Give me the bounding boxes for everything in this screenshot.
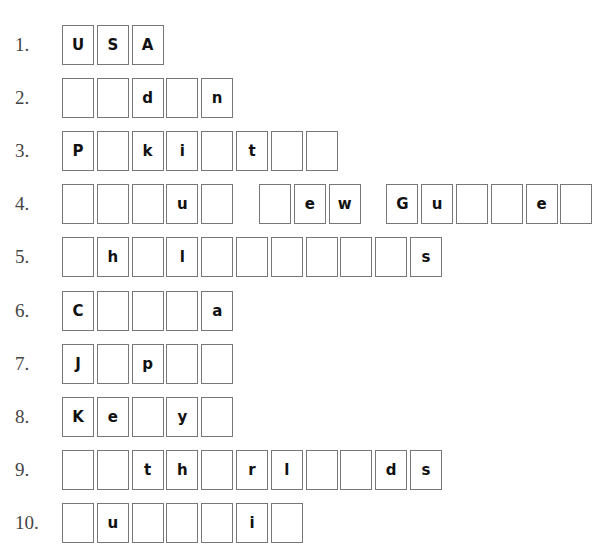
letter-box-empty[interactable] (491, 184, 523, 224)
letter-box-filled[interactable]: P (62, 131, 94, 171)
letter-box-empty[interactable] (97, 291, 129, 331)
letter-box-empty[interactable] (132, 503, 164, 543)
row-number: 6. (15, 300, 29, 322)
letter-box-filled[interactable]: U (62, 25, 94, 65)
letter-box-filled[interactable]: i (166, 131, 198, 171)
letter-box-empty[interactable] (236, 237, 268, 277)
letter-box-empty[interactable] (375, 237, 407, 277)
letter-box-empty[interactable] (201, 344, 233, 384)
row-number: 7. (15, 353, 29, 375)
letter-box-filled[interactable]: l (166, 237, 198, 277)
letter-box-empty[interactable] (271, 131, 303, 171)
row-number: 2. (15, 87, 29, 109)
letter-box-empty[interactable] (201, 237, 233, 277)
letter-box-filled[interactable]: C (62, 291, 94, 331)
letter-box-filled[interactable]: e (526, 184, 558, 224)
letter-box-empty[interactable] (340, 237, 372, 277)
letter-box-empty[interactable] (201, 397, 233, 437)
letter-box-empty[interactable] (97, 78, 129, 118)
letter-box-filled[interactable]: J (62, 344, 94, 384)
letter-box-empty[interactable] (97, 184, 129, 224)
letter-box-empty[interactable] (97, 131, 129, 171)
letter-box-empty[interactable] (166, 291, 198, 331)
letter-box-empty[interactable] (306, 237, 338, 277)
letter-box-filled[interactable]: y (166, 397, 198, 437)
letter-box-empty[interactable] (62, 237, 94, 277)
letter-box-empty[interactable] (560, 184, 592, 224)
letter-box-empty[interactable] (132, 184, 164, 224)
puzzle-row: 2.dn (0, 78, 591, 118)
letter-box-filled[interactable]: t (236, 131, 268, 171)
letter-box-filled[interactable]: e (294, 184, 326, 224)
letter-box-empty[interactable] (62, 503, 94, 543)
letter-box-filled[interactable]: u (166, 184, 198, 224)
letter-box-filled[interactable]: w (329, 184, 361, 224)
letter-box-empty[interactable] (201, 503, 233, 543)
letter-box-empty[interactable] (62, 78, 94, 118)
letter-box-filled[interactable]: a (201, 291, 233, 331)
row-number: 3. (15, 140, 29, 162)
letter-box-filled[interactable]: A (132, 25, 164, 65)
letter-box-filled[interactable]: s (410, 237, 442, 277)
letter-box-filled[interactable]: G (386, 184, 418, 224)
letter-box-filled[interactable]: K (62, 397, 94, 437)
puzzle-row: 4.uewGue (0, 184, 591, 224)
letter-box-filled[interactable]: d (375, 450, 407, 490)
puzzle-row: 3.Pkit (0, 131, 591, 171)
letter-box-empty[interactable] (132, 291, 164, 331)
letter-box-filled[interactable]: t (132, 450, 164, 490)
letter-box-filled[interactable]: u (421, 184, 453, 224)
row-number: 1. (15, 34, 29, 56)
row-number: 5. (15, 246, 29, 268)
letter-box-filled[interactable]: l (271, 450, 303, 490)
letter-box-empty[interactable] (456, 184, 488, 224)
puzzle-row: 9.thrlds (0, 450, 591, 490)
puzzle-row: 7.Jp (0, 344, 591, 384)
letter-box-filled[interactable]: n (201, 78, 233, 118)
letter-box-filled[interactable]: h (97, 237, 129, 277)
puzzle-row: 8.Key (0, 397, 591, 437)
letter-box-filled[interactable]: h (166, 450, 198, 490)
letter-box-filled[interactable]: S (97, 25, 129, 65)
row-number: 8. (15, 406, 29, 428)
letter-box-empty[interactable] (271, 237, 303, 277)
letter-box-filled[interactable]: e (97, 397, 129, 437)
letter-box-empty[interactable] (306, 131, 338, 171)
letter-box-empty[interactable] (62, 184, 94, 224)
puzzle-row: 6.Ca (0, 291, 591, 331)
letter-box-empty[interactable] (201, 184, 233, 224)
letter-box-empty[interactable] (97, 450, 129, 490)
letter-box-empty[interactable] (271, 503, 303, 543)
letter-box-filled[interactable]: i (236, 503, 268, 543)
letter-box-filled[interactable]: p (132, 344, 164, 384)
row-number: 10. (15, 512, 39, 534)
puzzle-row: 5.hls (0, 237, 591, 277)
letter-box-filled[interactable]: r (236, 450, 268, 490)
letter-box-empty[interactable] (166, 503, 198, 543)
letter-box-empty[interactable] (306, 450, 338, 490)
letter-box-empty[interactable] (201, 131, 233, 171)
letter-box-empty[interactable] (166, 78, 198, 118)
puzzle-row: 1.USA (0, 25, 591, 65)
letter-box-filled[interactable]: d (132, 78, 164, 118)
letter-box-empty[interactable] (340, 450, 372, 490)
row-number: 9. (15, 459, 29, 481)
row-number: 4. (15, 193, 29, 215)
letter-box-empty[interactable] (166, 344, 198, 384)
puzzle-row: 10.ui (0, 503, 591, 543)
letter-box-empty[interactable] (62, 450, 94, 490)
letter-box-empty[interactable] (97, 344, 129, 384)
letter-box-empty[interactable] (132, 397, 164, 437)
letter-box-filled[interactable]: k (132, 131, 164, 171)
letter-box-empty[interactable] (201, 450, 233, 490)
letter-box-filled[interactable]: s (410, 450, 442, 490)
letter-box-filled[interactable]: u (97, 503, 129, 543)
letter-box-empty[interactable] (132, 237, 164, 277)
letter-box-empty[interactable] (259, 184, 291, 224)
